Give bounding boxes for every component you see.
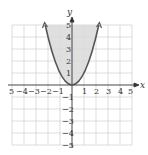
svg-text:−2: −2: [62, 105, 74, 114]
svg-text:−3: −3: [62, 117, 74, 126]
svg-text:1: 1: [82, 87, 87, 96]
svg-text:4: 4: [118, 87, 123, 96]
svg-text:5: 5: [9, 87, 14, 96]
svg-text:−4: −4: [16, 87, 28, 96]
svg-text:2: 2: [94, 87, 99, 96]
svg-text:−1: −1: [62, 93, 74, 102]
svg-text:1: 1: [66, 69, 71, 78]
x-axis-label: x: [140, 80, 145, 90]
svg-text:4: 4: [66, 33, 71, 42]
svg-text:−2: −2: [40, 87, 52, 96]
svg-text:−5: −5: [62, 141, 74, 150]
svg-text:3: 3: [66, 45, 71, 54]
svg-text:2: 2: [66, 57, 71, 66]
svg-text:5: 5: [128, 87, 133, 96]
svg-text:3: 3: [106, 87, 111, 96]
svg-text:−3: −3: [28, 87, 40, 96]
svg-text:−4: −4: [62, 129, 74, 138]
parabola-graph: y x 5 −4 −3 −2 −1 1 2 3 4 5 5 4 3 2 1 −1…: [0, 0, 148, 155]
svg-text:5: 5: [66, 21, 71, 30]
y-axis-label: y: [66, 7, 73, 17]
